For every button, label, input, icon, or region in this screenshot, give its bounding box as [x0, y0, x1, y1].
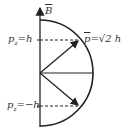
lower-projection-label: pz=−h [7, 100, 40, 112]
axis-label-b: B [45, 6, 52, 16]
vector-magnitude-label: p=√2 h [84, 34, 121, 44]
upper-projection-label: pz=h [8, 34, 32, 46]
diagram-canvas [0, 0, 130, 134]
upper-vector-arrow [40, 41, 78, 73]
lower-vector-arrow [40, 73, 78, 105]
